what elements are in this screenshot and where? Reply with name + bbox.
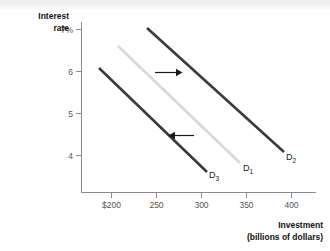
curve-label-D3-subscript: 3 bbox=[216, 175, 220, 182]
curve-label-D1: D 1 bbox=[243, 163, 254, 175]
y-tick-label-6: 6 bbox=[68, 67, 73, 77]
axis-lines bbox=[82, 22, 317, 193]
curve-label-D1-subscript: 1 bbox=[250, 168, 254, 175]
x-tick-label-400: 400 bbox=[284, 200, 298, 210]
y-axis-title-line2: rate bbox=[53, 23, 69, 33]
y-axis-title: Interest rate bbox=[38, 11, 69, 33]
curve-label-D3: D 3 bbox=[209, 170, 220, 182]
chart-canvas: 7% 6 5 4 $200 250 300 350 400 Interest r… bbox=[0, 0, 330, 251]
axes bbox=[82, 22, 317, 193]
curve-D3 bbox=[99, 68, 207, 172]
y-tick-label-5: 5 bbox=[68, 109, 73, 119]
curve-label-D2: D 2 bbox=[286, 152, 297, 164]
x-tick-label-200: $200 bbox=[102, 200, 121, 210]
demand-curves bbox=[99, 28, 284, 172]
x-axis-title-line2: (billions of dollars) bbox=[247, 232, 323, 242]
shift-right-arrow-icon bbox=[155, 69, 183, 77]
investment-demand-chart: 7% 6 5 4 $200 250 300 350 400 Interest r… bbox=[0, 0, 330, 251]
y-axis-title-line1: Interest bbox=[38, 11, 69, 21]
x-axis-title: Investment (billions of dollars) bbox=[247, 220, 323, 242]
y-tick-label-4: 4 bbox=[68, 151, 73, 161]
x-tick-label-250: 250 bbox=[149, 200, 163, 210]
x-tick-label-300: 300 bbox=[194, 200, 208, 210]
y-axis-ticks: 7% 6 5 4 bbox=[61, 25, 82, 161]
x-tick-label-350: 350 bbox=[239, 200, 253, 210]
x-axis-ticks: $200 250 300 350 400 bbox=[102, 193, 299, 211]
curve-label-D2-subscript: 2 bbox=[293, 157, 297, 164]
x-axis-title-line1: Investment bbox=[278, 220, 323, 230]
